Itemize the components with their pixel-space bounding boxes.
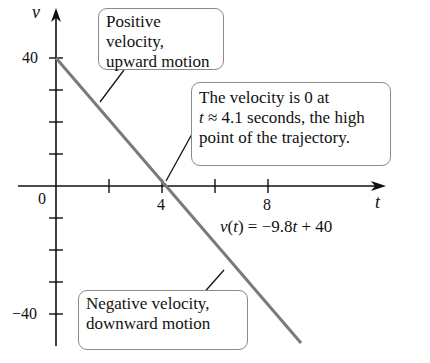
zero-callout-leader bbox=[166, 134, 192, 181]
positive-callout-leader bbox=[100, 70, 124, 102]
positive-velocity-callout: Positive velocity, upward motion bbox=[98, 8, 224, 70]
equation-label: v(t) = −9.8t + 40 bbox=[220, 217, 332, 237]
zero-velocity-callout: The velocity is 0 at t ≈ 4.1 seconds, th… bbox=[191, 82, 391, 166]
negative-velocity-callout: Negative velocity, downward motion bbox=[78, 290, 248, 350]
tick-label-0: 0 bbox=[38, 190, 46, 208]
tick-label-40: 40 bbox=[22, 49, 38, 67]
tick-label-neg40: −40 bbox=[12, 305, 37, 323]
v-axis-label: v bbox=[32, 2, 40, 23]
tick-label-8: 8 bbox=[263, 196, 271, 214]
t-axis-label: t bbox=[375, 192, 380, 213]
tick-label-4: 4 bbox=[157, 196, 165, 214]
zero-callout-line2: t ≈ 4.1 seconds, the high bbox=[199, 108, 383, 128]
